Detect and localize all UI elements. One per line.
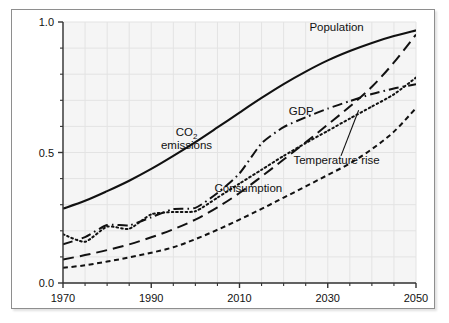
figure-container: 0.00.51.019701990201020302050 Population… xyxy=(0,0,449,323)
y-tick-label: 0.0 xyxy=(39,277,54,289)
line-chart: 0.00.51.019701990201020302050 Population… xyxy=(0,0,449,323)
series-label-population: Population xyxy=(309,21,363,33)
x-tick-label: 2010 xyxy=(227,292,251,304)
x-tick-label: 2050 xyxy=(404,292,428,304)
series-label-temperature-rise: Temperature rise xyxy=(293,154,379,166)
series-label-co2-emissions-line2: emissions xyxy=(161,139,212,151)
y-tick-label: 1.0 xyxy=(39,16,54,28)
series-label-gdp: GDP xyxy=(289,105,314,117)
x-tick-label: 2030 xyxy=(316,292,340,304)
x-tick-label: 1990 xyxy=(139,292,163,304)
series-label-consumption: Consumption xyxy=(214,182,282,194)
y-tick-label: 0.5 xyxy=(39,147,54,159)
x-tick-label: 1970 xyxy=(51,292,75,304)
